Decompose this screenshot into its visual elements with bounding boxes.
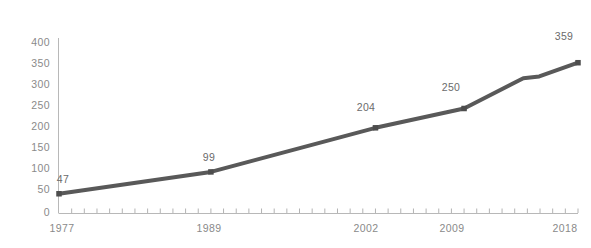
y-tick-label: 150 [31, 141, 50, 153]
data-point-marker [56, 191, 62, 197]
x-tick-label-2002: 2002 [354, 222, 379, 234]
y-tick-label: 200 [31, 120, 50, 132]
data-point-marker [208, 169, 214, 175]
y-tick-label: 400 [31, 36, 50, 48]
x-tick-label-2009: 2009 [440, 222, 465, 234]
y-tick-label: 250 [31, 99, 50, 111]
y-tick-label: 0 [44, 206, 50, 218]
y-tick-label: 50 [38, 183, 50, 195]
data-point-marker [575, 60, 581, 66]
line-chart: 400 350 300 250 200 150 100 50 0 1977 19… [0, 0, 591, 248]
y-tick-label: 300 [31, 78, 50, 90]
data-series-line [59, 63, 578, 194]
value-label-204: 204 [357, 101, 375, 113]
data-point-marker [373, 125, 379, 131]
data-point-marker [461, 106, 467, 112]
x-tick-label-1989: 1989 [197, 222, 222, 234]
chart-canvas: 400 350 300 250 200 150 100 50 0 1977 19… [0, 0, 591, 248]
x-axis-tick-labels: 1977 1989 2002 2009 2018 [50, 222, 578, 234]
x-tick-label-1977: 1977 [50, 222, 75, 234]
y-tick-label: 100 [31, 162, 50, 174]
value-label-359: 359 [555, 30, 573, 42]
data-point-markers [56, 60, 581, 197]
value-label-250: 250 [442, 81, 460, 93]
data-point-value-labels: 47 99 204 250 359 [57, 30, 573, 185]
value-label-47: 47 [57, 173, 69, 185]
x-tick-label-2018: 2018 [553, 222, 578, 234]
y-axis-tick-labels: 400 350 300 250 200 150 100 50 0 [31, 36, 50, 218]
value-label-99: 99 [203, 151, 215, 163]
x-axis-minor-ticks [72, 209, 578, 214]
y-tick-label: 350 [31, 57, 50, 69]
